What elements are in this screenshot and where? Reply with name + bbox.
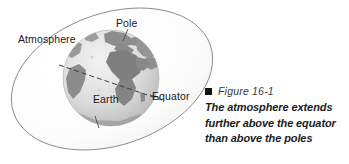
figure-number: Figure 16-1 — [218, 85, 274, 97]
figure-page: Atmosphere Pole Earth Equator Figure 16-… — [0, 0, 349, 164]
label-equator: Equator — [152, 90, 189, 102]
label-atmosphere: Atmosphere — [18, 33, 76, 45]
filled-square-icon — [205, 88, 212, 95]
label-pole: Pole — [116, 17, 137, 29]
figure-number-line: Figure 16-1 — [205, 85, 347, 97]
label-earth: Earth — [93, 93, 119, 105]
figure-caption-text: The atmosphere extends further above the… — [205, 100, 347, 147]
figure-caption: Figure 16-1 The atmosphere extends furth… — [205, 85, 347, 147]
